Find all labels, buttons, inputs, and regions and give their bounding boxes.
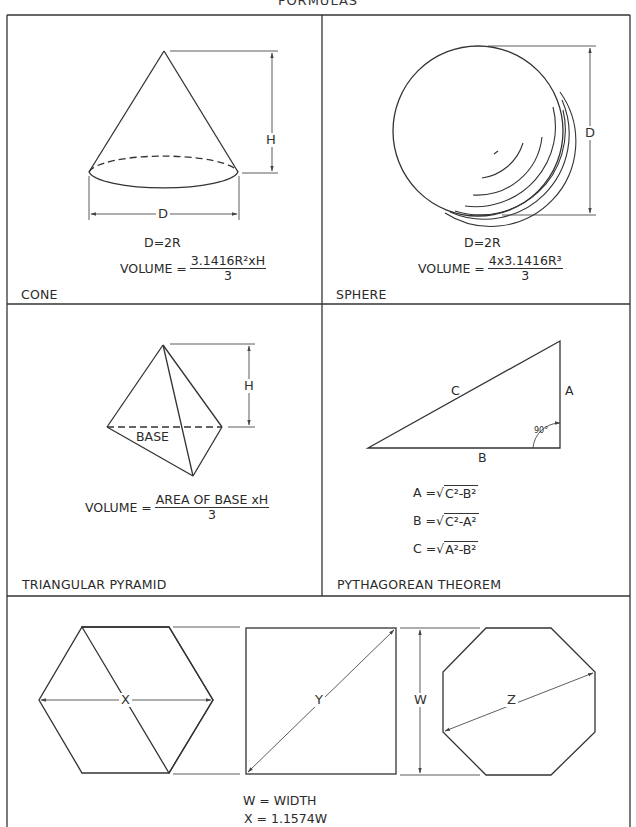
cone-diameter-label: D: [156, 207, 170, 221]
cone-figure: [89, 51, 278, 220]
formula-a-lhs: A =: [413, 485, 436, 500]
pythagorean-formula-a: A =√C²-B²: [413, 485, 478, 502]
formula-b-radicand: C²-A²: [444, 513, 479, 530]
pyramid-figure: [107, 344, 255, 476]
formula-a-radicand: C²-B²: [444, 485, 478, 502]
sphere-relation: D=2R: [464, 235, 501, 250]
sphere-diameter-label: D: [583, 126, 597, 140]
pyramid-base-label: BASE: [136, 429, 169, 444]
right-angle-label: 90°: [534, 426, 548, 435]
cone-relation: D=2R: [144, 235, 181, 250]
sphere-volume-prefix: VOLUME =: [418, 261, 485, 276]
sqrt-icon: √: [436, 485, 444, 500]
cone-volume-denominator: 3: [224, 269, 232, 283]
side-a-label: A: [565, 383, 574, 398]
pyramid-panel-label: TRIANGULAR PYRAMID: [22, 577, 167, 592]
square-y-label: Y: [313, 693, 325, 707]
octagon-z-label: Z: [505, 693, 518, 707]
polygon-note-width: W = WIDTH: [243, 793, 317, 808]
sphere-volume-denominator: 3: [521, 269, 529, 283]
formula-b-lhs: B =: [413, 513, 436, 528]
sphere-figure: [393, 46, 596, 226]
formula-c-radicand: A²-B²: [444, 541, 478, 558]
triangle-figure: [368, 341, 560, 448]
pyramid-volume-prefix: VOLUME =: [85, 500, 152, 515]
polygon-note-x: X = 1.1574W: [244, 811, 327, 826]
cone-volume-prefix: VOLUME =: [120, 261, 187, 276]
cone-height-label: H: [264, 133, 278, 147]
formula-c-lhs: C =: [413, 541, 436, 556]
hexagon-x-label: X: [119, 693, 132, 707]
cone-volume-formula: VOLUME = 3.1416R²xH3: [120, 253, 266, 283]
pyramid-volume-denominator: 3: [208, 508, 216, 522]
sphere-panel-label: SPHERE: [336, 287, 387, 302]
cone-volume-numerator: 3.1416R²xH: [190, 253, 266, 269]
cone-panel-label: CONE: [21, 287, 58, 302]
sphere-volume-numerator: 4x3.1416R³: [488, 253, 563, 269]
pyramid-volume-numerator: AREA OF BASE xH: [155, 492, 269, 508]
pyramid-height-label: H: [242, 379, 256, 393]
side-c-label: C: [451, 383, 460, 398]
width-w-label: W: [412, 693, 429, 707]
sqrt-icon: √: [436, 541, 444, 556]
sphere-volume-formula: VOLUME = 4x3.1416R³3: [418, 253, 563, 283]
pyramid-volume-formula: VOLUME = AREA OF BASE xH3: [85, 492, 269, 522]
sqrt-icon: √: [436, 513, 444, 528]
side-b-label: B: [478, 450, 487, 465]
pythagorean-panel-label: PYTHAGOREAN THEOREM: [337, 577, 501, 592]
pythagorean-formula-c: C =√A²-B²: [413, 541, 478, 558]
pythagorean-formula-b: B =√C²-A²: [413, 513, 479, 530]
